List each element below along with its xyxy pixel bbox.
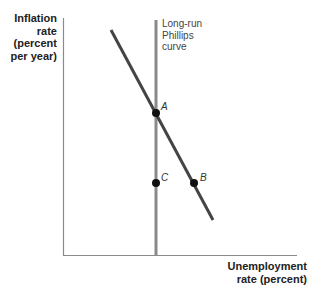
- point-a-label: A: [161, 101, 168, 112]
- long-run-phillips-curve-label: Long-run Phillips curve: [162, 18, 202, 53]
- x-axis-label-line-1: Unemployment: [228, 260, 307, 273]
- short-run-phillips-curve: [111, 30, 213, 220]
- x-axis-label: Unemployment rate (percent): [228, 260, 307, 285]
- lrpc-label-line-3: curve: [162, 41, 202, 53]
- x-axis-label-line-2: rate (percent): [228, 273, 307, 286]
- phillips-curve-chart: [0, 0, 317, 294]
- point-b: [190, 179, 198, 187]
- lrpc-label-line-2: Phillips: [162, 30, 202, 42]
- point-c: [152, 179, 160, 187]
- point-a: [152, 109, 160, 117]
- point-c-label: C: [161, 172, 168, 183]
- point-b-label: B: [200, 172, 207, 183]
- lrpc-label-line-1: Long-run: [162, 18, 202, 30]
